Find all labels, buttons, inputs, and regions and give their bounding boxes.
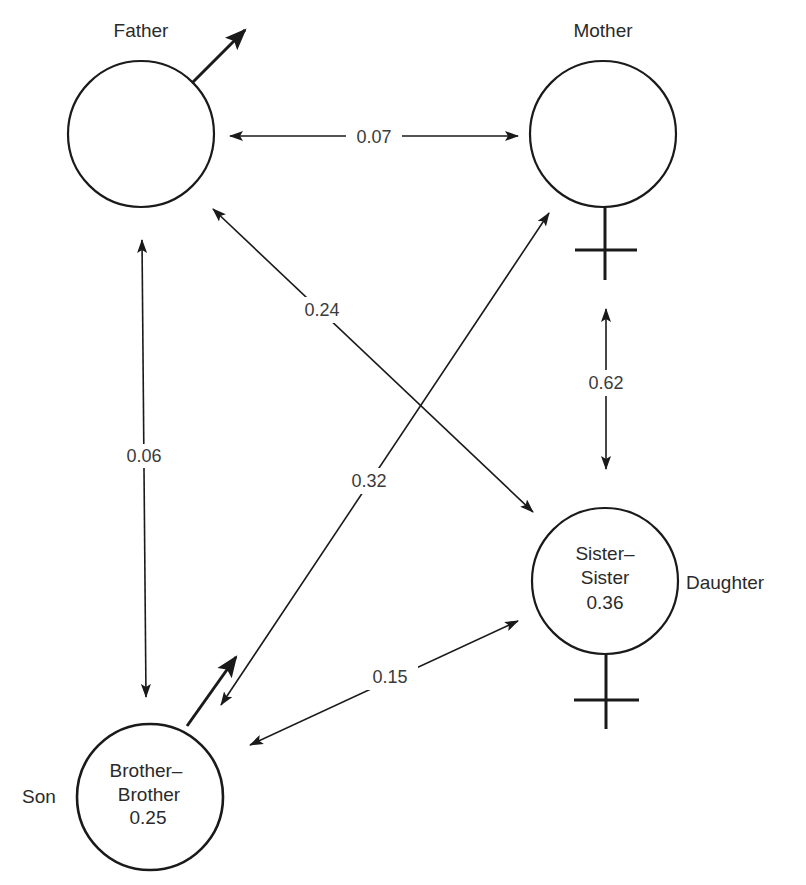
edge-mother-son: 0.32 [221,213,549,705]
edge-mother-daughter: 0.62 [578,309,634,469]
edge-father-mother: 0.07 [230,124,518,148]
sister-sister-line-2: Sister [581,567,630,588]
son-label: Son [22,786,56,807]
mother-circle [530,61,676,207]
female-symbol-cross-icon [574,654,639,729]
edge-label-father-mother: 0.07 [356,127,391,147]
edge-father-daughter: 0.24 [213,209,533,512]
node-father: Father [68,20,245,207]
edge-label-mother-daughter: 0.62 [588,373,623,393]
daughter-label: Daughter [686,572,765,593]
male-symbol-arrow-icon [192,30,245,83]
female-symbol-cross-icon [575,207,637,280]
edge-son-daughter: 0.15 [250,621,518,745]
mother-label: Mother [573,20,633,41]
double-arrow-icon [221,213,549,705]
father-label: Father [114,20,170,41]
edge-label-son-daughter: 0.15 [372,667,407,687]
edge-label-father-son: 0.06 [126,446,161,466]
edge-label-father-daughter: 0.24 [304,300,339,320]
brother-brother-line-1: Brother– [110,760,183,781]
double-arrow-icon [142,240,146,697]
male-symbol-arrow-icon [187,657,236,726]
sister-sister-value: 0.36 [587,592,624,613]
node-son: Brother– Brother 0.25 Son [22,657,236,870]
sister-sister-line-1: Sister– [575,543,635,564]
kinship-correlation-diagram: Father Mother Sister– Sister 0.36 Daught… [0,0,806,885]
brother-brother-value: 0.25 [130,807,167,828]
node-mother: Mother [530,20,676,280]
brother-brother-line-2: Brother [118,784,181,805]
node-daughter: Sister– Sister 0.36 Daughter [532,508,765,729]
double-arrow-icon [213,209,533,512]
edge-label-mother-son: 0.32 [351,471,386,491]
edge-father-son: 0.06 [116,240,172,697]
